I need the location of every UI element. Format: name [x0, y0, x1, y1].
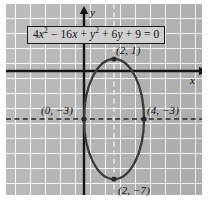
point-label-top: (2, 1)	[116, 44, 140, 56]
x-axis-label: x	[190, 74, 195, 86]
point-label-bottom: (2, −7)	[118, 184, 150, 196]
x-axis-arrowhead	[199, 67, 207, 75]
point-marker-right	[141, 116, 146, 121]
point-label-left: (0, −3)	[41, 104, 73, 116]
equation-term-2: − 16	[48, 28, 72, 40]
y-axis-label: y	[90, 6, 95, 18]
equation-term-3: +	[77, 28, 90, 40]
point-marker-top	[111, 56, 116, 61]
y-axis-arrowhead	[80, 6, 88, 14]
equation-term-4: + 6	[99, 28, 117, 40]
point-label-right: (4, −3)	[147, 104, 179, 116]
equation-term-5: + 9 = 0	[123, 28, 160, 40]
point-marker-left	[81, 116, 86, 121]
equation-label-box: 4x2 − 16x + y2 + 6y + 9 = 0	[27, 26, 165, 44]
point-marker-bottom	[111, 176, 116, 181]
conic-graph-figure: 4x2 − 16x + y2 + 6y + 9 = 0 (2, 1) (0, −…	[0, 0, 209, 211]
